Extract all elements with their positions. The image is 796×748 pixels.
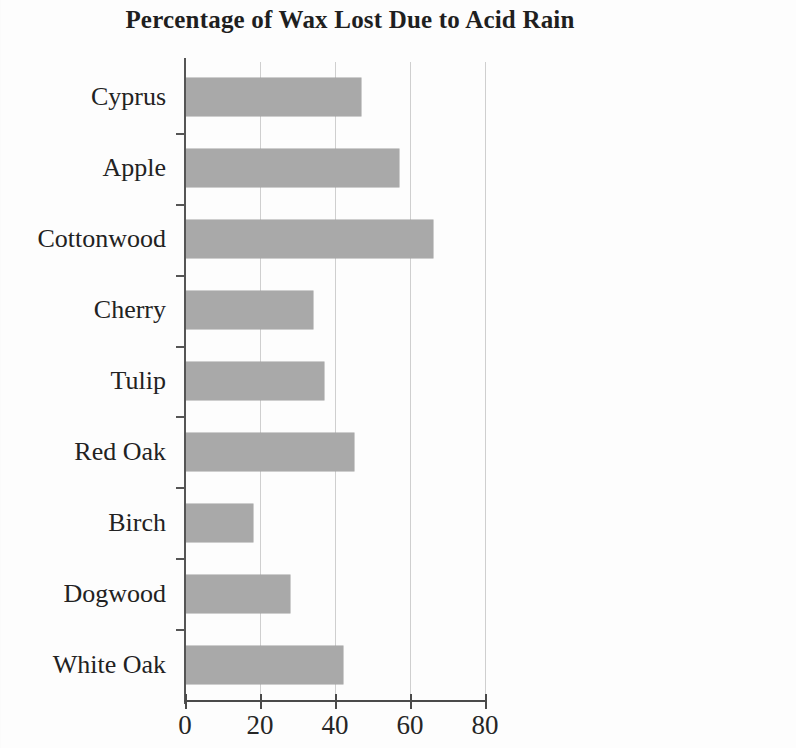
category-label: Dogwood	[0, 579, 176, 609]
category-label: Cyprus	[0, 82, 176, 112]
category-label: Cherry	[0, 295, 176, 325]
x-axis-tick	[335, 694, 337, 709]
x-axis-tick	[185, 694, 187, 709]
page-title: Percentage of Wax Lost Due to Acid Rain	[0, 6, 700, 34]
category-label: Tulip	[0, 366, 176, 396]
category-label: White Oak	[0, 650, 176, 680]
bar	[185, 220, 433, 258]
gridline	[410, 62, 411, 700]
bar	[185, 646, 343, 684]
y-axis-tick	[176, 346, 185, 348]
x-axis-tick-label: 0	[155, 710, 215, 741]
y-axis-tick	[176, 133, 185, 135]
y-axis-tick	[176, 487, 185, 489]
y-axis-tick	[176, 416, 185, 418]
category-label: Apple	[0, 153, 176, 183]
bar	[185, 433, 354, 471]
bar	[185, 149, 399, 187]
category-label: Birch	[0, 508, 176, 538]
bar	[185, 291, 313, 329]
x-axis-tick	[260, 694, 262, 709]
plot-area	[185, 62, 485, 700]
gridline	[485, 62, 486, 700]
x-axis-tick	[485, 694, 487, 709]
bar	[185, 362, 324, 400]
x-axis-tick-label: 20	[230, 710, 290, 741]
bar	[185, 78, 361, 116]
x-axis-tick-label: 60	[380, 710, 440, 741]
y-axis-tick	[176, 275, 185, 277]
x-axis-tick-label: 40	[305, 710, 365, 741]
y-axis-tick	[176, 204, 185, 206]
chart-page: Percentage of Wax Lost Due to Acid Rain …	[0, 0, 796, 748]
bar	[185, 575, 290, 613]
y-axis-tick	[176, 558, 185, 560]
x-axis-tick-label: 80	[455, 710, 515, 741]
category-label: Red Oak	[0, 437, 176, 467]
x-axis-tick	[410, 694, 412, 709]
bar	[185, 504, 253, 542]
y-axis-tick	[176, 629, 185, 631]
y-axis-line	[184, 58, 186, 704]
category-label: Cottonwood	[0, 224, 176, 254]
